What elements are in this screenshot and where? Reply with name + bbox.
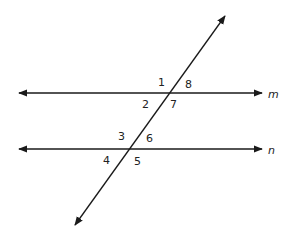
angle-4-label: 4 [103,154,110,167]
angle-6-label: 6 [146,132,153,145]
angle-7-label: 7 [170,98,177,111]
angle-2-label: 2 [142,98,149,111]
transversal-line [75,16,225,225]
line-m-label: m [268,88,279,101]
angle-5-label: 5 [134,155,141,168]
angle-1-label: 1 [158,76,165,89]
transversal-diagram: m n 1 8 2 7 3 6 4 5 [0,0,288,237]
angle-8-label: 8 [185,78,192,91]
angle-3-label: 3 [118,130,125,143]
line-n-label: n [268,144,275,157]
